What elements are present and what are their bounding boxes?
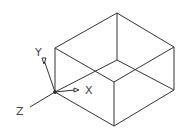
box-wireframe xyxy=(55,13,174,126)
drawing-canvas: Y X Z xyxy=(0,0,186,137)
x-axis-label: X xyxy=(85,84,93,97)
y-axis-label: Y xyxy=(34,46,42,59)
z-axis-label: Z xyxy=(16,105,24,118)
